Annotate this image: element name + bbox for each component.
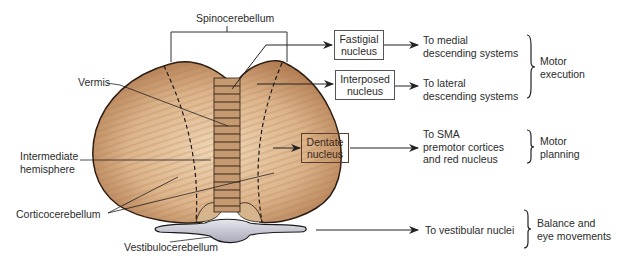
label-corticocerebellum: Corticocerebellum <box>16 208 101 221</box>
function-motor-planning: Motor planning <box>540 135 580 160</box>
output-lateral: To lateral descending systems <box>423 77 518 102</box>
vermis-ladder <box>214 78 240 212</box>
label-intermediate-hemisphere: Intermediate hemisphere <box>20 150 78 175</box>
brace-motor-planning <box>527 130 534 163</box>
box-interposed-nucleus: Interposed nucleus <box>335 70 395 100</box>
box-fastigial-nucleus: Fastigial nucleus <box>334 30 384 60</box>
brace-balance <box>524 210 531 248</box>
cerebellum-diagram <box>0 0 624 260</box>
label-vestibulocerebellum: Vestibulocerebellum <box>124 241 218 254</box>
spinocerebellum-bracket <box>171 26 287 62</box>
function-motor-execution: Motor execution <box>540 55 585 80</box>
output-sma: To SMA premotor cortices and red nucleus <box>423 128 504 166</box>
brace-motor-execution <box>527 35 535 98</box>
function-balance: Balance and eye movements <box>537 217 611 242</box>
output-medial: To medial descending systems <box>423 34 518 59</box>
output-vestibular: To vestibular nuclei <box>425 224 514 237</box>
label-vermis: Vermis <box>78 76 110 89</box>
box-dentate-nucleus: Dentate nucleus <box>301 133 349 163</box>
label-spinocerebellum: Spinocerebellum <box>196 12 274 25</box>
